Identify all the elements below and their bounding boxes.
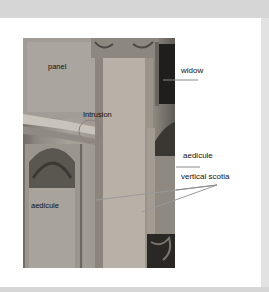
label-aedicule-left: aedicule (31, 202, 59, 210)
frame-edge (261, 18, 269, 287)
label-intrusion: Intrusion (83, 111, 112, 119)
label-panel: panel (48, 63, 66, 71)
facade-photo: panel Intrusion aedicule (23, 38, 175, 268)
label-aedicule-right: aedicule (183, 152, 213, 160)
facade-drawing (23, 38, 175, 268)
label-vertical-scotia: vertical scotia (181, 173, 229, 181)
label-widow: widow (181, 67, 203, 75)
